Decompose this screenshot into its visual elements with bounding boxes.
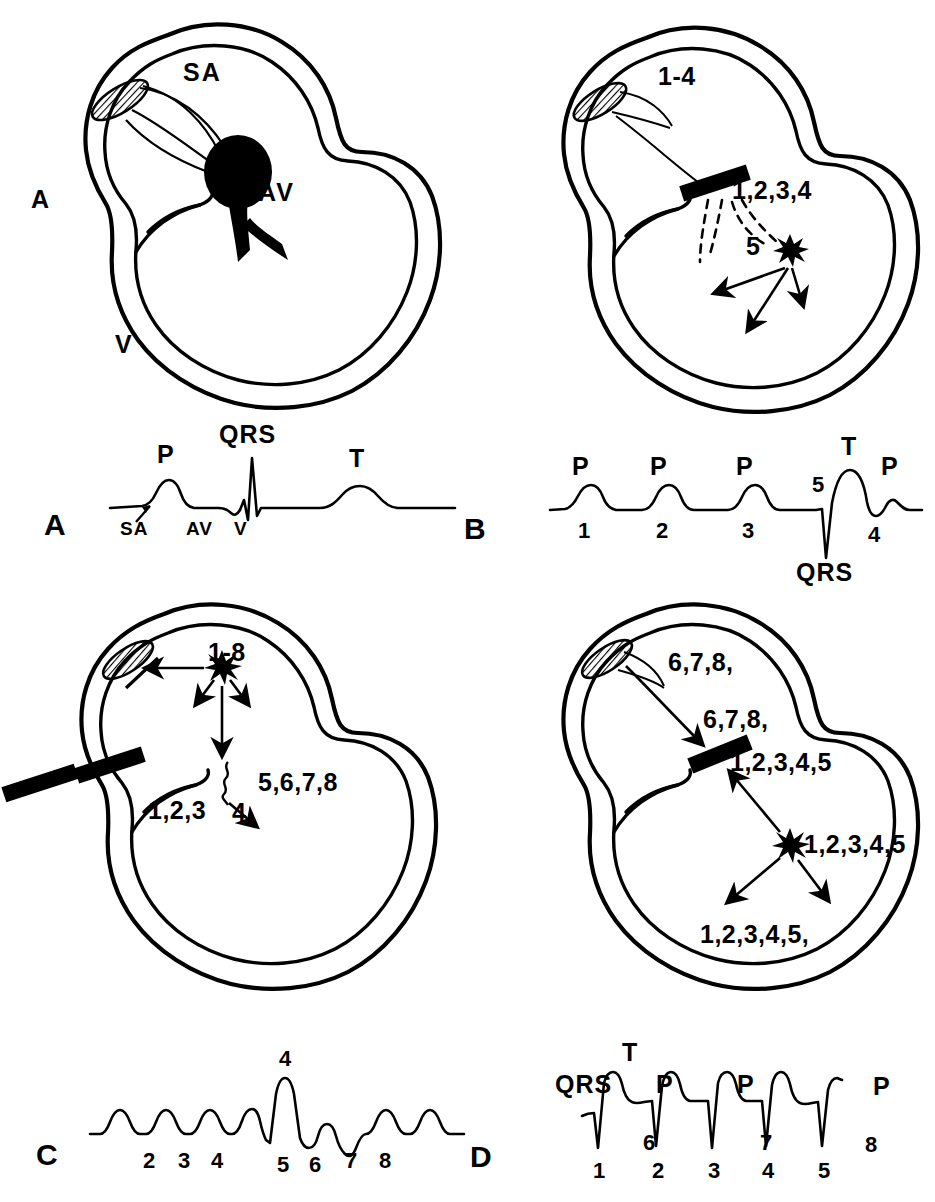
blocked-retrograde-label-d: 1,2,3,4,5 [730,748,832,777]
ventricular-focus-label-d: 1,2,3,4,5 [804,830,906,859]
ecg-trace-d [460,1020,935,1190]
ventricular-spread-label-d: 1,2,3,4,5, [700,920,809,949]
beat-number-d3: 3 [708,1158,720,1184]
sa-node [86,72,154,127]
panel-letter-a: A [44,508,66,542]
p-wave-label-a: P [157,440,175,469]
sa-node-label: SA [183,58,222,87]
panel-letter-b: B [464,512,486,546]
ecg-trace-b [460,430,935,590]
v-tick-label-a: V [234,518,248,540]
sa-beats-label-b: 1-4 [658,62,696,91]
blocked-beats-label-b: 1,2,3,4 [732,176,812,205]
beat-number-d5: 5 [818,1158,830,1184]
retrograde-p-number-d6: 6 [643,1130,655,1156]
panel-b-heart: 1-4 1,2,3,4 5 [460,0,935,430]
ectopic-focus-starburst [773,234,809,267]
beat-number-c5: 5 [277,1152,289,1178]
beat-number-c8: 8 [379,1148,391,1174]
sa-tick-label-a: SA [120,518,148,540]
panel-b-ecg: B P P P 5 T P 1 2 3 4 QRS [460,430,935,590]
escape-beat-label-b: 5 [746,232,760,261]
heart-inner-wall [583,625,895,964]
ecg-waveform [90,1078,464,1156]
atrioventricular-groove [614,194,690,256]
beat-number-c2: 2 [143,1148,155,1174]
ectopic-beats-label-c: 1-8 [208,638,246,667]
heart-diagram-a [0,0,470,420]
heart-diagram-b [460,0,935,430]
av-tick-label-a: AV [186,518,213,540]
aberrant-peak-label-c: 4 [279,1046,291,1072]
beat-number-b2: 2 [656,518,668,544]
p-wave-label-b4: P [881,452,899,481]
heart-inner-wall [105,46,417,385]
ecg-trace-c [0,1020,470,1180]
t-wave-label-b: T [841,432,857,461]
sa-node [577,633,638,685]
retrograde-path-label-d: 6,7,8, [703,705,769,734]
qrs-label-d: QRS [555,1070,612,1099]
beat-number-c7: 7 [345,1148,357,1174]
conducted-beats-right-label-c: 5,6,7,8 [258,768,338,797]
panel-letter-d: D [470,1140,492,1174]
beat-number-d2: 2 [652,1158,664,1184]
atrioventricular-groove [614,770,690,832]
p-wave-label-d2: P [737,1070,755,1099]
escape-marker-label-b: 5 [812,472,824,498]
retrograde-sa-label-d: 6,7,8, [668,648,734,677]
atrium-label: A [31,185,51,214]
ecg-waveform [582,1072,842,1148]
p-wave-label-b2: P [650,452,668,481]
t-wave-label-a: T [349,444,365,473]
panel-a-ecg: A P QRS T SA AV V [0,430,470,550]
av-node-label: AV [258,178,295,207]
p-wave-label-b1: P [572,452,590,481]
sa-conduction-pathways [612,92,698,182]
beat-number-c3: 3 [178,1148,190,1174]
beat-number-d1: 1 [593,1158,605,1184]
aberrant-beat-label-c: 4 [232,798,246,827]
beat-number-b4: 4 [868,522,880,548]
t-wave-label-d: T [622,1038,638,1067]
dashed-blocked-paths [700,200,778,262]
heart-inner-wall [101,625,413,964]
panel-c-heart: 1-8 1,2,3 4 5,6,7,8 [0,600,470,1000]
beat-number-c4: 4 [211,1148,223,1174]
panel-c-ecg: C 4 2 3 4 5 6 7 8 [0,1020,470,1180]
p-wave-label-d3: P [873,1072,891,1101]
qrs-label-a: QRS [219,420,276,449]
p-wave-label-d1: P [656,1070,674,1099]
beat-number-b1: 1 [578,518,590,544]
atrioventricular-groove [136,190,212,252]
beat-number-d4: 4 [762,1158,774,1184]
beat-number-c6: 6 [309,1152,321,1178]
beat-number-b3: 3 [742,518,754,544]
ventricle-label: V [115,330,134,359]
blocked-retrograde-arrow [730,772,780,832]
panel-letter-c: C [36,1138,58,1172]
retrograde-conduction-arrow [626,666,702,744]
block-bar-left [1,764,78,803]
p-wave-label-b3: P [736,452,754,481]
panel-d-heart: 6,7,8, 6,7,8, 1,2,3,4,5 1,2,3,4,5 1,2,3,… [460,600,935,1000]
ventricular-spread-arrows [728,858,828,902]
conducted-beats-left-label-c: 1,2,3 [148,796,206,825]
ventricular-spread-arrows [715,268,803,330]
panel-a-heart: SA AV A V [0,0,470,420]
panel-d-ecg: D QRS T P P P 6 7 8 1 2 3 4 5 [460,1020,935,1190]
ectopic-spread-arrows [146,668,248,755]
retrograde-p-number-d8: 8 [865,1132,877,1158]
sa-node [98,634,159,686]
wavy-aberrant-path [223,762,228,805]
retrograde-p-number-d7: 7 [760,1130,772,1156]
ecg-waveform [550,470,922,558]
qrs-label-b: QRS [796,558,853,587]
